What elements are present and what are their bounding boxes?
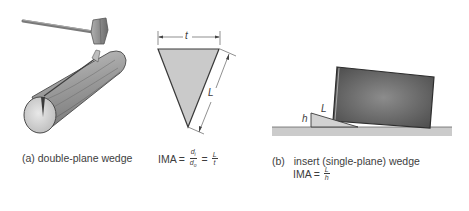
dimension-label-h: h xyxy=(302,113,308,124)
dimension-label-L-insert: L xyxy=(321,103,327,114)
equals-sign: = xyxy=(314,168,320,180)
hammer-illustration xyxy=(23,18,108,44)
fraction-di-do: di do xyxy=(189,148,198,170)
insert-wedge-diagram xyxy=(272,67,452,136)
formula-lhs: IMA xyxy=(158,153,177,165)
equals-sign: = xyxy=(179,153,185,165)
equals-sign: = xyxy=(202,153,208,165)
wedge-diagrams xyxy=(0,0,469,211)
double-plane-wedge-diagram xyxy=(158,31,236,134)
fraction-L-h: L h xyxy=(324,166,330,181)
log-illustration xyxy=(24,50,126,133)
caption-double-plane-wedge: (a) double-plane wedge xyxy=(22,152,132,164)
formula-lhs: IMA xyxy=(293,168,312,180)
dimension-label-L: L xyxy=(208,87,214,98)
caption-prefix-b: (b) xyxy=(272,155,285,167)
formula-double-plane-ima: IMA = di do = L t xyxy=(158,148,220,170)
fraction-L-t: L t xyxy=(212,151,218,166)
formula-insert-ima: IMA = L h xyxy=(293,166,332,181)
dimension-label-t: t xyxy=(185,30,188,41)
